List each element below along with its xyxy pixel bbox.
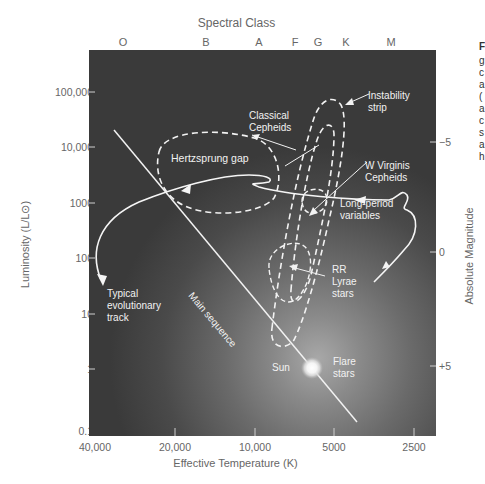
mag-tick-0: 0 (439, 246, 445, 258)
spectral-tick-o: O (119, 36, 128, 48)
hertzsprung-gap-label: Hertzsprung gap (171, 152, 249, 164)
typical-track-label-2: evolutionary (107, 300, 161, 312)
spectral-tick-g: G (314, 36, 323, 48)
sun-label: Sun (272, 362, 290, 374)
rr-lyrae-label-2: Lyrae (332, 276, 357, 288)
classical-cepheids-label-2: Cepheids (249, 122, 291, 134)
spectral-tick-a: A (255, 36, 262, 48)
magnitude-axis-label: Absolute Magnitude (463, 207, 475, 304)
temp-tick-10000: 10,000 (239, 441, 271, 453)
spectral-tick-m: M (386, 36, 395, 48)
left-tick-marks (89, 92, 95, 369)
long-period-label-2: variables (340, 210, 380, 222)
luminosity-axis-label: Luminosity (L/L⊙) (19, 201, 32, 288)
long-period-label-1: Long-period (340, 198, 393, 210)
hertzsprung-gap-region (158, 132, 279, 213)
spectral-class-title: Spectral Class (0, 16, 479, 30)
instability-strip-pointer (351, 94, 369, 102)
rr-lyrae-label-3: stars (332, 288, 354, 300)
mag-tick-minus5: −5 (439, 136, 451, 148)
temp-tick-40000: 40,000 (79, 441, 111, 453)
w-virginis-label-2: Cepheids (365, 172, 407, 184)
caption-fragment: F (479, 40, 485, 53)
instability-strip-label-2: strip (368, 102, 387, 114)
spectral-tick-f: F (292, 36, 299, 48)
mag-tick-plus5: +5 (439, 360, 451, 372)
w-virginis-label-1: W Virginis (365, 160, 410, 172)
track-arrow-down-icon (97, 274, 107, 286)
spectral-tick-k: K (342, 36, 349, 48)
rr-lyrae-label-1: RR (332, 264, 346, 276)
evolutionary-track (96, 175, 415, 282)
instability-strip-label-1: Instability (368, 90, 410, 102)
typical-track-label-3: track (107, 312, 129, 324)
temp-tick-20000: 20,000 (159, 441, 191, 453)
flare-stars-label-1: Flare (333, 356, 356, 368)
temp-tick-2500: 2500 (402, 441, 425, 453)
classical-cepheids-pointer (252, 135, 296, 150)
temp-tick-5000: 5000 (322, 441, 345, 453)
flare-stars-label-2: stars (333, 368, 355, 380)
temperature-axis-label: Effective Temperature (K) (0, 457, 478, 469)
instability-strip-outer (272, 99, 345, 346)
main-sequence-line (114, 130, 357, 422)
hr-diagram-plot: Hertzsprung gap Classical Cepheids Insta… (89, 50, 436, 436)
right-tick-marks (430, 142, 436, 366)
caption-fragment: h (479, 150, 485, 163)
bottom-tick-marks (175, 428, 414, 436)
spectral-tick-b: B (202, 36, 209, 48)
typical-track-label-1: Typical (107, 288, 138, 300)
sun-marker (301, 357, 323, 379)
lum-tick-100000: 100,000 (55, 86, 93, 98)
classical-cepheids-label-1: Classical (249, 110, 289, 122)
